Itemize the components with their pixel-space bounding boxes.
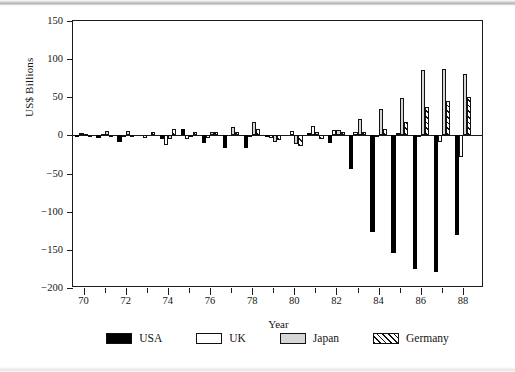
y-tick <box>67 250 73 251</box>
bar-usa-82 <box>328 135 332 143</box>
bar-germany-73 <box>151 132 155 135</box>
legend-label: Japan <box>313 332 339 344</box>
bar-germany-81 <box>319 135 323 139</box>
y-tick-label: −200 <box>21 282 63 293</box>
y-tick-label: 150 <box>21 15 63 26</box>
legend-item-germany[interactable]: Germany <box>373 332 449 344</box>
x-tick <box>400 288 401 293</box>
x-tick-label: 88 <box>458 295 469 306</box>
bar-usa-77 <box>223 135 227 147</box>
legend-swatch-japan <box>280 333 306 344</box>
bar-germany-75 <box>193 132 197 135</box>
bar-germany-72 <box>130 135 134 137</box>
plot-area: 150100500−50−100−150−200 707274767880828… <box>72 20 483 287</box>
x-tick <box>379 288 380 295</box>
bar-usa-86 <box>413 135 417 269</box>
bar-uk-76 <box>206 135 210 138</box>
bar-germany-78 <box>256 129 260 136</box>
bar-germany-87 <box>446 101 450 135</box>
y-tick <box>67 174 73 175</box>
bar-usa-84 <box>370 135 374 232</box>
y-tick <box>67 212 73 213</box>
legend-item-japan[interactable]: Japan <box>280 332 339 344</box>
bar-uk-86 <box>417 135 421 137</box>
x-tick <box>147 288 148 293</box>
bar-usa-87 <box>434 135 438 272</box>
x-tick <box>231 288 232 293</box>
bar-germany-83 <box>362 132 366 135</box>
bar-germany-82 <box>341 132 345 135</box>
y-axis-title: US$ Billions <box>23 57 35 117</box>
legend-item-usa[interactable]: USA <box>106 332 162 344</box>
x-tick <box>252 288 253 295</box>
bar-uk-87 <box>438 135 442 141</box>
x-tick-label: 70 <box>78 295 89 306</box>
x-tick <box>421 288 422 295</box>
bar-germany-71 <box>109 135 113 137</box>
bar-japan-75 <box>189 135 193 137</box>
bar-germany-76 <box>214 132 218 135</box>
x-tick <box>210 288 211 295</box>
x-axis-title: Year <box>73 318 484 330</box>
legend-item-uk[interactable]: UK <box>196 332 246 344</box>
x-tick <box>315 288 316 293</box>
y-tick <box>67 288 73 289</box>
x-tick <box>463 288 464 295</box>
bar-usa-83 <box>349 135 353 169</box>
scan-artifact-top <box>0 0 515 6</box>
y-tick <box>67 21 73 22</box>
bar-uk-73 <box>143 135 147 137</box>
x-tick <box>105 288 106 293</box>
y-tick <box>67 59 73 60</box>
chart-container: 150100500−50−100−150−200 707274767880828… <box>0 0 515 372</box>
y-tick-label: −150 <box>21 244 63 255</box>
x-tick-label: 80 <box>289 295 300 306</box>
x-tick-label: 78 <box>247 295 258 306</box>
legend-label: Germany <box>406 332 449 344</box>
bar-usa-78 <box>244 135 248 148</box>
scan-artifact-bottom <box>0 367 515 372</box>
y-tick <box>67 135 73 136</box>
y-tick-label: 0 <box>21 129 63 140</box>
x-tick <box>336 288 337 295</box>
chart-legend: USAUKJapanGermany <box>72 332 483 344</box>
x-tick <box>442 288 443 293</box>
x-tick <box>294 288 295 295</box>
bar-germany-77 <box>235 132 239 135</box>
bar-germany-84 <box>383 129 387 136</box>
bar-uk-72 <box>122 135 126 137</box>
bar-germany-80 <box>298 135 302 146</box>
bar-japan-74 <box>168 135 172 139</box>
bar-germany-85 <box>404 122 408 135</box>
legend-swatch-uk <box>196 333 222 344</box>
x-tick <box>126 288 127 295</box>
x-tick <box>273 288 274 293</box>
y-tick-label: −50 <box>21 168 63 179</box>
y-tick-label: −100 <box>21 206 63 217</box>
x-tick-label: 82 <box>331 295 342 306</box>
x-tick-label: 74 <box>163 295 174 306</box>
x-tick <box>358 288 359 293</box>
legend-label: USA <box>139 332 162 344</box>
x-tick-label: 86 <box>416 295 427 306</box>
bar-usa-70 <box>75 135 79 137</box>
legend-label: UK <box>229 332 246 344</box>
x-tick <box>84 288 85 295</box>
bar-germany-79 <box>277 135 281 140</box>
legend-swatch-usa <box>106 333 132 344</box>
x-tick-label: 76 <box>205 295 216 306</box>
bar-usa-85 <box>391 135 395 252</box>
bar-germany-74 <box>172 129 176 136</box>
bar-germany-70 <box>88 135 92 137</box>
x-tick <box>168 288 169 295</box>
y-tick <box>67 97 73 98</box>
x-tick-label: 72 <box>120 295 131 306</box>
x-tick-label: 84 <box>373 295 384 306</box>
bar-uk-88 <box>459 135 463 156</box>
bar-germany-88 <box>467 97 471 135</box>
legend-swatch-germany <box>373 333 399 344</box>
x-tick <box>189 288 190 293</box>
bar-germany-86 <box>425 107 429 135</box>
